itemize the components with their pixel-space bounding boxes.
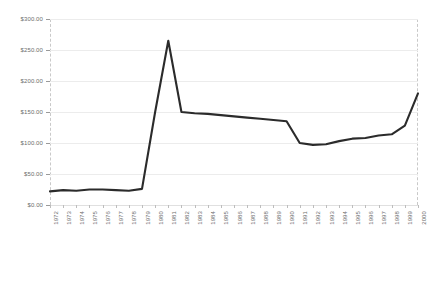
x-tick-label: 1998 [394, 211, 400, 225]
x-tick-mark [234, 205, 235, 208]
y-tick-label: $100.00 [21, 140, 43, 146]
x-tick-mark [418, 205, 419, 208]
x-tick-mark [208, 205, 209, 208]
x-tick-mark [221, 205, 222, 208]
y-tick-label: $250.00 [21, 47, 43, 53]
x-tick-label: 1976 [105, 211, 111, 225]
x-tick-label: 1997 [381, 211, 387, 225]
line-chart: $0.00$50.00$100.00$150.00$200.00$250.00$… [0, 0, 434, 281]
x-tick-label: 1992 [315, 211, 321, 225]
x-tick-mark [247, 205, 248, 208]
x-tick-label: 1977 [118, 211, 124, 225]
x-tick-mark [405, 205, 406, 208]
x-tick-label: 1990 [289, 211, 295, 225]
x-tick-mark [313, 205, 314, 208]
x-tick-label: 1973 [66, 211, 72, 225]
x-tick-label: 1994 [342, 211, 348, 225]
x-tick-mark [287, 205, 288, 208]
x-tick-mark [116, 205, 117, 208]
x-tick-label: 1989 [276, 211, 282, 225]
x-tick-mark [142, 205, 143, 208]
x-tick-mark [195, 205, 196, 208]
x-tick-mark [326, 205, 327, 208]
x-tick-label: 1988 [263, 211, 269, 225]
x-tick-label: 1980 [158, 211, 164, 225]
x-tick-mark [273, 205, 274, 208]
data-line [50, 41, 418, 192]
x-tick-label: 1995 [355, 211, 361, 225]
x-tick-mark [365, 205, 366, 208]
x-tick-label: 1972 [53, 211, 59, 225]
x-tick-mark [76, 205, 77, 208]
x-tick-mark [155, 205, 156, 208]
x-tick-label: 1975 [92, 211, 98, 225]
x-tick-label: 1996 [368, 211, 374, 225]
x-tick-label: 1984 [210, 211, 216, 225]
x-tick-mark [168, 205, 169, 208]
plot-area [50, 19, 418, 205]
x-tick-mark [129, 205, 130, 208]
x-tick-label: 1982 [184, 211, 190, 225]
x-tick-label: 1993 [329, 211, 335, 225]
x-tick-mark [300, 205, 301, 208]
x-tick-mark [50, 205, 51, 208]
x-tick-label: 1999 [407, 211, 413, 225]
x-tick-label: 1983 [197, 211, 203, 225]
x-tick-mark [63, 205, 64, 208]
x-tick-label: 1991 [302, 211, 308, 225]
x-tick-mark [103, 205, 104, 208]
x-tick-mark [181, 205, 182, 208]
x-tick-mark [379, 205, 380, 208]
x-tick-mark [89, 205, 90, 208]
y-tick-label: $50.00 [24, 171, 43, 177]
x-tick-mark [339, 205, 340, 208]
x-tick-mark [392, 205, 393, 208]
x-tick-label: 1979 [145, 211, 151, 225]
x-tick-label: 1986 [237, 211, 243, 225]
x-tick-label: 1978 [131, 211, 137, 225]
x-tick-mark [352, 205, 353, 208]
x-tick-label: 2000 [421, 211, 427, 225]
y-tick-label: $300.00 [21, 16, 43, 22]
y-tick-label: $150.00 [21, 109, 43, 115]
x-tick-label: 1985 [223, 211, 229, 225]
x-tick-label: 1987 [250, 211, 256, 225]
y-tick-label: $0.00 [27, 202, 43, 208]
x-tick-label: 1974 [79, 211, 85, 225]
y-tick-label: $200.00 [21, 78, 43, 84]
series-layer [50, 19, 418, 205]
x-tick-label: 1981 [171, 211, 177, 225]
x-tick-mark [260, 205, 261, 208]
